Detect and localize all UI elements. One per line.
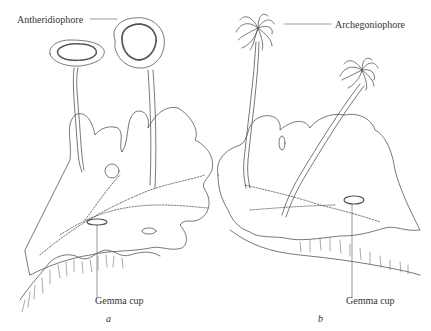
illustration [0,0,431,331]
panel-a-antheridiophore-left [50,40,105,172]
panel-a-antheridiophore-right [114,18,164,188]
panel-b-archegoniophore-right [282,58,378,217]
panel-a-gemma-cup-2 [87,219,107,225]
antheridiophore-label: Antheridiophore [17,14,83,25]
panel-label-a: a [106,313,111,324]
panel-a-gemma-cup-3 [142,228,156,234]
panel-label-b: b [318,313,323,324]
panel-a-gemma-cup-1 [105,164,119,178]
panel-b-thallus [217,114,420,275]
gemma-cup-label-a: Gemma cup [95,295,144,306]
panel-b-gemma-cup-2 [344,196,364,204]
panel-b-gemma-cup-1 [279,136,285,150]
panel-b-archegoniophore-left [236,14,274,188]
panel-a-thallus [20,107,213,300]
gemma-cup-label-b: Gemma cup [346,295,395,306]
archegoniophore-label: Archegoniophore [335,19,405,30]
